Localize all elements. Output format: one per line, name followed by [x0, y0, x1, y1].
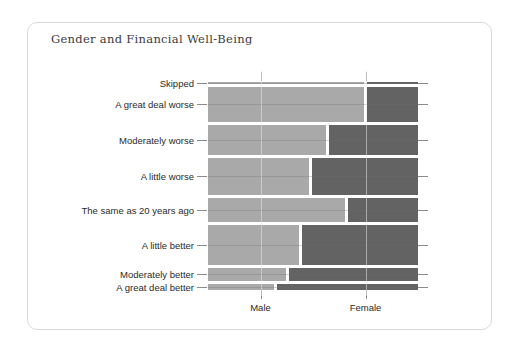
mosaic-segment-male — [208, 268, 286, 281]
x-axis-tick — [366, 72, 367, 81]
x-axis-tick — [261, 72, 262, 81]
mosaic-segment-female — [348, 198, 418, 222]
mosaic-segment-female — [367, 87, 418, 122]
mosaic-band — [208, 225, 418, 265]
y-axis-label: Skipped — [160, 77, 194, 88]
y-axis-tick — [418, 104, 428, 105]
mosaic-segment-male — [208, 125, 326, 155]
page-title: Gender and Financial Well-Being — [51, 32, 253, 46]
mosaic-segment-female — [312, 158, 418, 195]
mosaic-band — [208, 125, 418, 155]
y-axis-label: Moderately worse — [119, 134, 194, 145]
y-axis-tick — [418, 140, 428, 141]
mosaic-segment-female — [329, 125, 418, 155]
x-axis-ticks-top — [208, 72, 418, 82]
mosaic-band — [208, 87, 418, 122]
y-axis-labels: SkippedA great deal worseModerately wors… — [0, 82, 194, 290]
y-axis-ticks-left — [197, 82, 208, 290]
mosaic-segment-male — [208, 225, 299, 265]
mosaic-segment-male — [208, 198, 345, 222]
mosaic-segment-male — [208, 82, 364, 84]
y-axis-tick — [197, 274, 207, 275]
mosaic-band — [208, 82, 418, 84]
y-axis-label: A great deal worse — [115, 99, 194, 110]
y-axis-tick — [197, 245, 207, 246]
y-axis-label: A little worse — [141, 171, 194, 182]
x-axis-label: Female — [350, 302, 382, 313]
mosaic-plot-area — [208, 82, 418, 290]
y-axis-tick — [197, 287, 207, 288]
mosaic-segment-female — [367, 82, 418, 84]
mosaic-segment-female — [289, 268, 418, 281]
y-axis-tick — [418, 83, 428, 84]
y-axis-tick — [418, 245, 428, 246]
y-axis-label: Moderately better — [120, 269, 194, 280]
mosaic-segment-female — [302, 225, 418, 265]
y-axis-label: A little better — [142, 239, 194, 250]
mosaic-band — [208, 268, 418, 281]
y-axis-tick — [418, 176, 428, 177]
y-axis-tick — [197, 176, 207, 177]
mosaic-band — [208, 158, 418, 195]
mosaic-segment-male — [208, 158, 309, 195]
y-axis-ticks-right — [418, 82, 429, 290]
x-axis-labels: MaleFemale — [208, 302, 418, 316]
y-axis-tick — [418, 274, 428, 275]
mosaic-segment-male — [208, 87, 364, 122]
y-axis-tick — [197, 83, 207, 84]
y-axis-tick — [197, 140, 207, 141]
y-axis-label: A great deal better — [116, 281, 194, 292]
y-axis-tick — [418, 210, 428, 211]
y-axis-label: The same as 20 years ago — [82, 204, 194, 215]
y-axis-tick — [197, 210, 207, 211]
y-axis-tick — [418, 287, 428, 288]
x-axis-ticks-bottom — [208, 290, 418, 300]
mosaic-band — [208, 198, 418, 222]
x-axis-tick — [261, 290, 262, 299]
y-axis-tick — [197, 104, 207, 105]
x-axis-tick — [366, 290, 367, 299]
x-axis-label: Male — [250, 302, 271, 313]
